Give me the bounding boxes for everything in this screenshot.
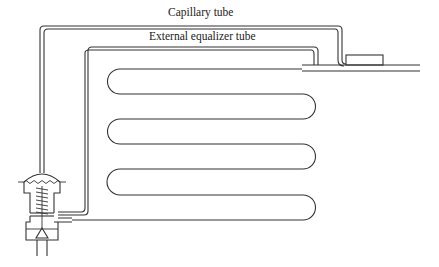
evaporator-coil [72, 69, 316, 220]
valve-inlet [37, 240, 47, 256]
capillary-tube [40, 26, 346, 173]
refrigeration-diagram [0, 0, 439, 267]
valve-spring [36, 186, 48, 228]
valve-needle [36, 228, 48, 238]
external-equalizer-tube [58, 47, 318, 215]
valve-diaphragm [18, 181, 66, 184]
suction-outlet-line [302, 65, 420, 71]
sensing-bulb [346, 55, 383, 65]
